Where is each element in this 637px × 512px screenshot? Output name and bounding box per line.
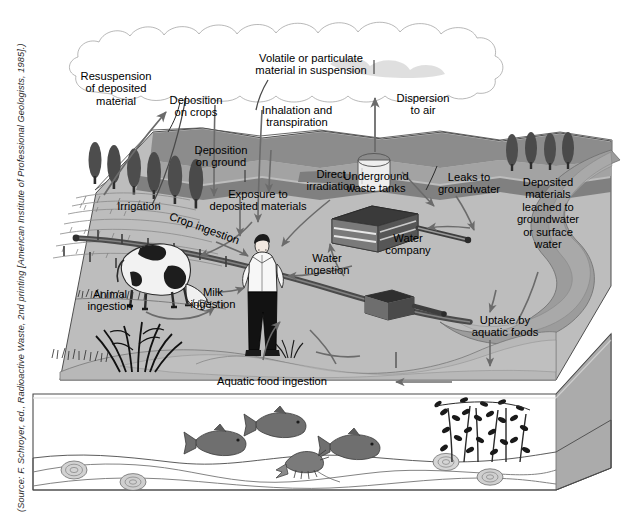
label-volatile-material: Volatile or particulate material in susp… xyxy=(230,52,392,77)
label-water-company: Water company xyxy=(377,232,439,257)
label-uptake-by-aquatic-foods: Uptake by aquatic foods xyxy=(462,314,548,339)
label-irrigation: Irrigation xyxy=(108,200,170,212)
label-deposition-on-crops: Deposition on crops xyxy=(152,94,240,119)
label-direct-irradiation: Direct irradiation xyxy=(300,168,362,193)
source-credit: (Source: F. Schroyer, ed., Radioactive W… xyxy=(16,0,32,512)
label-water-ingestion: Water ingestion xyxy=(296,252,358,277)
label-dispersion-to-air: Dispersion to air xyxy=(385,92,461,117)
label-deposition-on-ground: Deposition on ground xyxy=(178,144,264,169)
figure-canvas: Resuspension of deposited material Depos… xyxy=(0,0,637,512)
label-deposited-materials-leached: Deposited materials leached to groundwat… xyxy=(510,176,586,250)
label-animal-ingestion: Animal ingestion xyxy=(74,288,146,313)
label-aquatic-food-ingestion: Aquatic food ingestion xyxy=(196,375,348,387)
label-milk-ingestion: Milk ingestion xyxy=(184,286,242,311)
label-inhalation-transpiration: Inhalation and transpiration xyxy=(243,104,351,129)
label-leaks-to-groundwater: Leaks to groundwater xyxy=(428,171,510,196)
